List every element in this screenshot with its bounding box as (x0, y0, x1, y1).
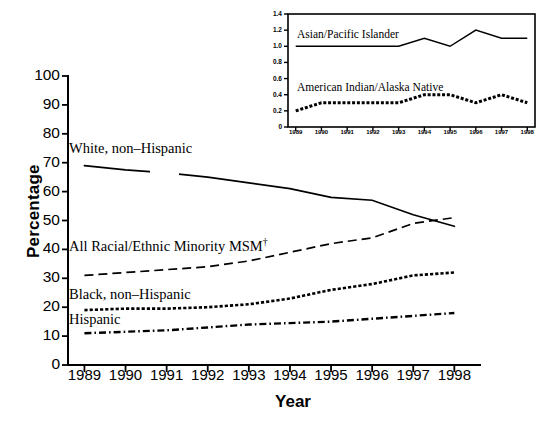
line-break-gap-0 (150, 168, 179, 194)
y-tick-label: 0 (16, 355, 60, 373)
inset-series-lines (296, 30, 528, 111)
y-tick-label: 20 (16, 297, 60, 315)
inset-y-tick-label: 1.4 (264, 10, 282, 17)
y-tick-label: 80 (16, 124, 60, 142)
inset-y-tick-label: 0.4 (264, 91, 282, 98)
inset-y-tick-label: 0.8 (264, 58, 282, 65)
inset-x-tick-label: 1991 (333, 129, 361, 135)
x-axis-title: Year (0, 392, 546, 412)
inset-y-tick-label: 0.6 (264, 75, 282, 82)
series-label-minority-text: All Racial/Ethnic Minority MSM (69, 238, 263, 254)
inset-x-tick-label: 1989 (282, 129, 310, 135)
figure-root: Percentage Year 0102030405060708090100 1… (0, 0, 546, 428)
series-label-white: White, non–Hispanic (69, 140, 192, 157)
inset-y-tick-label: 1.2 (264, 26, 282, 33)
series-label-black: Black, non–Hispanic (69, 286, 191, 303)
y-tick-label: 90 (16, 95, 60, 113)
inset-series-label-asian: Asian/Pacific Islander (297, 28, 399, 40)
inset-x-tick-label: 1992 (359, 129, 387, 135)
dagger-footnote-marker: † (263, 236, 268, 247)
inset-x-tick-label: 1993 (385, 129, 413, 135)
y-tick-label: 40 (16, 239, 60, 257)
inset-y-tick-label: 0 (264, 123, 282, 130)
inset-y-tick-label: 0.2 (264, 107, 282, 114)
y-tick-label: 50 (16, 211, 60, 229)
inset-x-tick-label: 1994 (410, 129, 438, 135)
inset-x-tick-label: 1997 (488, 129, 516, 135)
line-break-gap-1 (330, 168, 345, 194)
inset-x-tick-label: 1995 (436, 129, 464, 135)
main-series-line-0 (84, 166, 454, 227)
inset-series-label-native: American Indian/Alaska Native (297, 81, 443, 93)
inset-series-line-1 (296, 95, 528, 111)
inset-y-tick-label: 1.0 (264, 42, 282, 49)
series-label-hispanic: Hispanic (69, 311, 121, 328)
y-tick-label: 100 (16, 66, 60, 84)
y-tick-label: 60 (16, 182, 60, 200)
y-tick-label: 70 (16, 153, 60, 171)
y-tick-label: 10 (16, 326, 60, 344)
main-series-line-3 (84, 313, 454, 333)
inset-x-tick-label: 1996 (462, 129, 490, 135)
inset-x-tick-label: 1990 (307, 129, 335, 135)
series-label-minority: All Racial/Ethnic Minority MSM† (69, 236, 268, 255)
y-tick-label: 30 (16, 268, 60, 286)
x-tick-label: 1998 (424, 366, 484, 383)
inset-x-tick-label: 1998 (513, 129, 541, 135)
